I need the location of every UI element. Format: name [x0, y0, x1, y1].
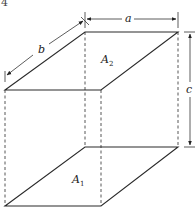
- dimension-b-label: b: [38, 43, 45, 56]
- face-label-a1: A1: [71, 173, 84, 188]
- dimension-c-label: c: [186, 83, 192, 96]
- top-face-a2: [5, 32, 178, 90]
- dimension-b: b: [5, 17, 89, 82]
- vertical-dashed-edges: [5, 32, 178, 206]
- figure-number: 4: [1, 0, 8, 9]
- dimension-c: c: [184, 32, 195, 147]
- dimension-a: a: [85, 12, 178, 28]
- prism-diagram: 4 a b c A2 A1: [0, 0, 195, 212]
- dimension-b-arrow-upper: [49, 21, 83, 44]
- bottom-face-a1: [5, 147, 178, 206]
- face-label-a2: A2: [100, 53, 113, 68]
- dimension-a-label: a: [125, 12, 132, 25]
